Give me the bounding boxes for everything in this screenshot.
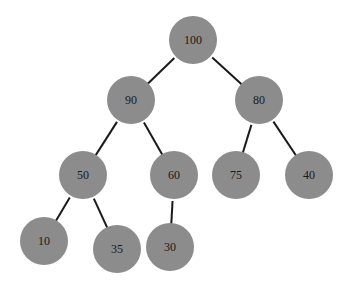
tree-edge-100-80 — [212, 57, 245, 87]
tree-edge-90-60 — [144, 123, 165, 160]
node-label: 10 — [38, 234, 50, 248]
node-label: 40 — [303, 168, 315, 182]
tree-node-100: 100 — [169, 16, 217, 64]
tree-edge-80-40 — [273, 122, 299, 160]
node-label: 50 — [77, 168, 89, 182]
tree-node-50: 50 — [59, 151, 107, 199]
node-label: 90 — [125, 93, 137, 107]
node-label: 60 — [168, 168, 180, 182]
tree-edge-90-50 — [93, 122, 117, 160]
tree-node-40: 40 — [285, 151, 333, 199]
tree-node-10: 10 — [20, 217, 68, 265]
binary-tree-diagram: 100908050607540103530 — [0, 0, 349, 286]
node-label: 80 — [253, 93, 265, 107]
tree-node-60: 60 — [150, 151, 198, 199]
tree-node-35: 35 — [93, 225, 141, 273]
node-label: 100 — [184, 33, 202, 47]
tree-node-30: 30 — [146, 223, 194, 271]
node-label: 75 — [230, 168, 242, 182]
tree-node-80: 80 — [235, 76, 283, 124]
tree-edge-100-90 — [144, 58, 174, 87]
tree-node-75: 75 — [212, 151, 260, 199]
node-label: 30 — [164, 240, 176, 254]
tree-nodes: 100908050607540103530 — [20, 16, 333, 273]
tree-node-90: 90 — [107, 76, 155, 124]
node-label: 35 — [111, 242, 123, 256]
